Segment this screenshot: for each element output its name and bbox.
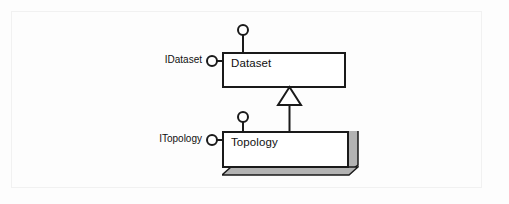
uml-diagram: IDataset Dataset ITopology Topology <box>0 0 509 204</box>
dataset-class-name: Dataset <box>231 57 271 69</box>
dataset-left-lollipop-icon[interactable] <box>206 55 218 67</box>
topology-left-lollipop-icon[interactable] <box>206 134 218 146</box>
generalization-arrow[interactable] <box>268 84 312 134</box>
topology-class-name: Topology <box>231 136 278 148</box>
dataset-top-lollipop-icon[interactable] <box>237 24 249 36</box>
topology-top-lollipop-icon[interactable] <box>237 111 249 123</box>
itopology-interface-label: ITopology <box>130 133 202 144</box>
dataset-left-interface-stem <box>217 60 224 62</box>
dataset-class-box[interactable]: Dataset <box>222 52 346 88</box>
diagram-canvas: IDataset Dataset ITopology Topology <box>0 0 509 204</box>
hollow-triangle-icon <box>278 87 301 105</box>
idataset-interface-label: IDataset <box>130 54 202 65</box>
topology-class-box[interactable]: Topology <box>222 131 349 168</box>
dataset-top-interface-stem <box>242 35 244 53</box>
